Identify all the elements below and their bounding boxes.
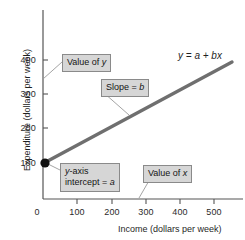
- y-axis-title: Expenditure (dollars per week): [22, 35, 32, 185]
- callout-y-intercept-line1: -axis: [70, 166, 89, 176]
- line-equation-label: y = a + bx: [178, 50, 222, 61]
- callout-slope-prefix: Slope =: [106, 82, 139, 92]
- x-tick-label-400: 400: [172, 207, 188, 217]
- callout-value-of-y-prefix: Value of: [67, 57, 102, 67]
- x-tick-label-200: 200: [104, 207, 120, 217]
- intercept-point-marker: [40, 158, 49, 167]
- callout-slope: Slope = b: [101, 79, 149, 97]
- callout-value-of-y-symbol: y: [102, 57, 107, 67]
- chart-figure: 400 300 200 100 0 100 200 300 400 500 In…: [0, 0, 245, 240]
- callout-value-of-x: Value of x: [143, 165, 192, 183]
- x-tick-label-0: 0: [34, 207, 39, 217]
- callout-value-of-y: Value of y: [62, 54, 111, 72]
- callout-y-intercept-value: a: [110, 177, 115, 187]
- x-tick-label-100: 100: [69, 207, 85, 217]
- callout-y-intercept-line2: intercept =: [65, 177, 110, 187]
- callout-value-of-x-prefix: Value of: [148, 168, 183, 178]
- x-tick-label-300: 300: [138, 207, 154, 217]
- plot-area: [0, 0, 245, 240]
- leader-value-of-y: [43, 62, 62, 79]
- x-tick-label-500: 500: [206, 207, 222, 217]
- x-axis-title: Income (dollars per week): [118, 224, 222, 234]
- callout-value-of-x-symbol: x: [183, 168, 188, 178]
- callout-slope-symbol: b: [139, 82, 144, 92]
- callout-y-intercept: y-axis intercept = a: [60, 163, 120, 192]
- x-tick-marks: [77, 199, 214, 204]
- regression-line: [44, 62, 232, 163]
